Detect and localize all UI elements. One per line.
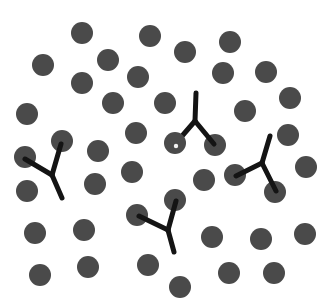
particle-dot	[71, 72, 93, 94]
particle-dot	[255, 61, 277, 83]
particle-dot	[169, 276, 191, 298]
particle-dot	[87, 140, 109, 162]
particle-dot	[16, 103, 38, 125]
particle-dot	[279, 87, 301, 109]
particle-dot	[127, 66, 149, 88]
particle-dot	[263, 262, 285, 284]
particle-dot	[234, 100, 256, 122]
diagram-canvas	[0, 0, 333, 306]
binding-site-marker-icon	[174, 144, 178, 148]
particle-dot	[73, 219, 95, 241]
particle-dot	[32, 54, 54, 76]
particle-dot	[250, 228, 272, 250]
particle-dot	[164, 132, 186, 154]
bound-particles-layer	[164, 132, 186, 154]
particle-dot	[125, 122, 147, 144]
particle-dot	[16, 180, 38, 202]
particle-dot	[71, 22, 93, 44]
particle-dot	[294, 223, 316, 245]
particle-dot	[201, 226, 223, 248]
particle-dot	[137, 254, 159, 276]
particle-dot	[102, 92, 124, 114]
particle-dot	[97, 49, 119, 71]
particle-dot	[121, 161, 143, 183]
particle-dot	[277, 124, 299, 146]
particle-dot	[212, 62, 234, 84]
particle-dot	[139, 25, 161, 47]
particle-dot	[77, 256, 99, 278]
particle-dot	[218, 262, 240, 284]
bound-particle	[164, 132, 186, 154]
particle-dot	[193, 169, 215, 191]
particle-dot	[154, 92, 176, 114]
particle-dot	[174, 41, 196, 63]
diagram-svg	[0, 0, 333, 306]
particle-dot	[24, 222, 46, 244]
particle-dot	[29, 264, 51, 286]
diagram-background	[0, 0, 333, 306]
particle-dot	[295, 156, 317, 178]
particle-dot	[219, 31, 241, 53]
antibody-center-stem	[195, 93, 196, 121]
particle-dot	[84, 173, 106, 195]
